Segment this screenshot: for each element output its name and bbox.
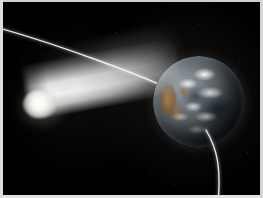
space-background <box>3 2 260 195</box>
image-alt-text: A glowing white comet with a wide lumino… <box>0 16 1 17</box>
frame-border-right <box>260 0 263 198</box>
frame-border-bottom <box>0 195 263 198</box>
trajectory-arc-outgoing <box>3 2 260 195</box>
comet-earth-illustration: A glowing white comet with a wide lumino… <box>0 0 263 198</box>
